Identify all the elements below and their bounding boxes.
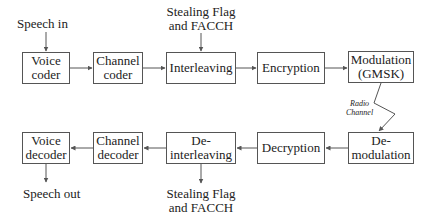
- encryption-block: Encryption: [257, 52, 325, 84]
- stealing-flag-out-label: Stealing Flag and FACCH: [166, 187, 236, 215]
- radio-channel-zigzag: [374, 83, 395, 131]
- radio-channel-label: Radio Channel: [346, 99, 373, 117]
- decryption-block: Decryption: [257, 132, 325, 164]
- voice-decoder-block: Voice decoder: [22, 132, 70, 164]
- speech-in-label: Speech in: [17, 17, 68, 31]
- stealing-flag-in-label: Stealing Flag and FACCH: [166, 5, 236, 33]
- modulation-block: Modulation (GMSK): [348, 51, 414, 83]
- channel-coder-block: Channel coder: [93, 52, 143, 84]
- channel-decoder-block: Channel decoder: [93, 132, 143, 164]
- voice-coder-block: Voice coder: [22, 52, 70, 84]
- interleaving-block: Interleaving: [166, 52, 236, 84]
- demodulation-block: De- modulation: [348, 132, 414, 164]
- speech-out-label: Speech out: [23, 187, 80, 201]
- deinterleaving-block: De- interleaving: [166, 132, 236, 164]
